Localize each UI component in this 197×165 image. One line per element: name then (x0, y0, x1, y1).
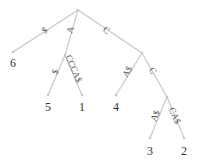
node-5 (47, 94, 50, 97)
node-CC (166, 96, 169, 99)
edge-label-CC-3: A$ (148, 108, 162, 122)
node-3 (149, 137, 152, 140)
node-1 (81, 94, 84, 97)
leaf-label-5: 5 (45, 100, 51, 114)
node-C (141, 52, 144, 55)
edge-root-C (78, 10, 142, 53)
edge-label-A-1: CCCA$ (64, 53, 85, 84)
suffix-tree-diagram: $ A $ CCCA$ C A$ C A$ CA$ 6 5 1 4 3 2 (0, 0, 197, 165)
nodes (12, 9, 186, 140)
leaf-label-2: 2 (181, 144, 187, 158)
leaf-labels: 6 5 1 4 3 2 (10, 56, 187, 158)
edge-C-CC (142, 53, 167, 97)
node-4 (115, 94, 118, 97)
leaf-label-3: 3 (147, 144, 153, 158)
node-6 (12, 51, 15, 54)
node-2 (183, 137, 186, 140)
edge-label-CC-2: CA$ (167, 106, 183, 126)
leaf-label-4: 4 (113, 100, 119, 114)
leaf-label-1: 1 (79, 100, 85, 114)
node-root (77, 9, 80, 12)
edge-label-C-CC: C (147, 65, 159, 75)
edge-label-root-A: A (64, 25, 76, 34)
leaf-label-6: 6 (10, 56, 16, 70)
edge-label-C-4: A$ (120, 64, 134, 79)
